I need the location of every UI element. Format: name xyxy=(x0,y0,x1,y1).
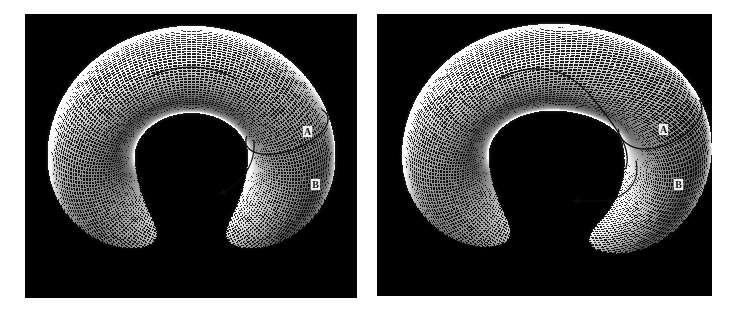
label-curve-a-left: A xyxy=(303,126,312,137)
left-panel xyxy=(25,14,357,298)
label-curve-a-right: A xyxy=(659,124,668,135)
right-panel xyxy=(377,14,712,296)
torus-render-left xyxy=(25,14,357,298)
torus-render-right xyxy=(377,14,712,296)
label-curve-b-right: B xyxy=(674,179,683,190)
figure-container: A B A B xyxy=(0,0,735,313)
label-curve-b-left: B xyxy=(311,179,320,190)
